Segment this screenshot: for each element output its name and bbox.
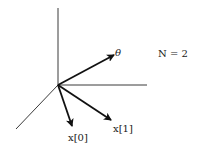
vector-diagram: θ N = 2 x[1] x[0] <box>0 0 198 152</box>
x1-vector-arrow <box>58 85 111 120</box>
theta-vector-arrow <box>58 55 114 85</box>
x0-vector-arrow <box>58 85 72 126</box>
x0-label: x[0] <box>68 133 88 143</box>
diagonal-axis <box>16 85 58 129</box>
diagram-canvas <box>0 0 198 152</box>
theta-label: θ <box>115 48 121 58</box>
n-equation-label: N = 2 <box>158 49 188 59</box>
x1-label: x[1] <box>113 124 133 134</box>
